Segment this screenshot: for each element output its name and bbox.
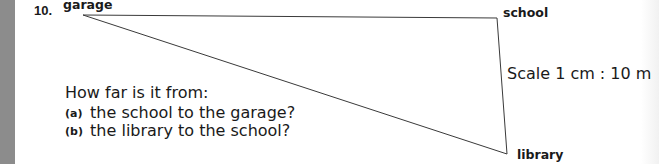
edge-school-library bbox=[497, 18, 507, 154]
label-library: library bbox=[517, 147, 563, 162]
question-part-b: (b) the library to the school? bbox=[65, 121, 290, 140]
question-number: 10. bbox=[34, 3, 52, 18]
question-part-a: (a) the school to the garage? bbox=[65, 103, 295, 122]
edge-garage-school bbox=[83, 15, 497, 18]
question-prompt: How far is it from: bbox=[65, 83, 208, 102]
scale-label: Scale 1 cm : 10 m bbox=[507, 64, 651, 83]
part-b-text: the library to the school? bbox=[90, 121, 290, 140]
label-school: school bbox=[503, 5, 548, 20]
part-a-letter: (a) bbox=[65, 107, 85, 120]
part-a-text: the school to the garage? bbox=[90, 103, 295, 122]
part-b-letter: (b) bbox=[65, 125, 85, 138]
label-garage: garage bbox=[63, 0, 112, 12]
